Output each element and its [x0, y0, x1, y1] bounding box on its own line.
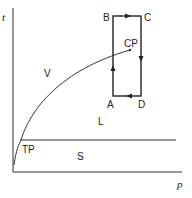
arrow-icon-ab [111, 65, 116, 71]
corner-label-c: C [144, 12, 151, 23]
corner-label-d: D [138, 99, 145, 110]
region-label-liquid: L [98, 116, 104, 127]
x-axis-label: p [176, 178, 183, 190]
corner-label-b: B [103, 12, 110, 23]
region-label-solid: S [77, 151, 84, 162]
cycle-path [113, 16, 141, 96]
y-axis-label: t [2, 11, 6, 23]
phase-diagram: t p B C A D CP TP V L S [0, 0, 192, 198]
corner-label-a: A [107, 99, 114, 110]
triple-point-label: TP [22, 144, 35, 155]
arrow-icon-da [126, 94, 132, 99]
critical-point-marker [129, 49, 131, 51]
arrow-icon-cd [139, 56, 144, 62]
arrow-icon-bc [125, 14, 131, 19]
region-label-vapor: V [44, 68, 51, 79]
critical-point-label: CP [124, 38, 138, 49]
